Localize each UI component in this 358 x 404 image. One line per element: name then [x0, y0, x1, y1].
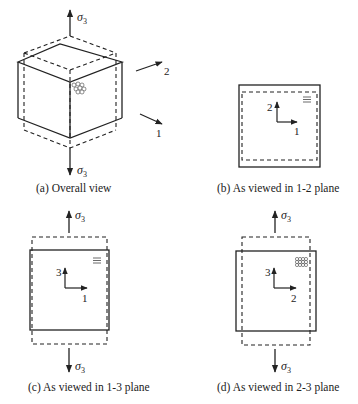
- stress-label-top: σ3: [75, 208, 85, 224]
- panel-b-1-2-plane: 2 1: [239, 85, 320, 167]
- deformed-rectangle: [32, 237, 107, 344]
- panel-d-2-3-plane: σ3 3 2 σ3: [236, 208, 316, 375]
- axis-2-label: 2: [291, 292, 297, 304]
- caption-a: (a) Overall view: [36, 182, 111, 194]
- original-cube-outline: [18, 44, 122, 138]
- fiber-lines-icon: [303, 97, 311, 102]
- panel-a-overall-view: σ3 σ3 2 1: [18, 10, 170, 179]
- axis-2-label: 2: [267, 101, 273, 113]
- original-square: [30, 250, 109, 330]
- stress-label-bottom: σ3: [281, 359, 291, 375]
- fiber-cluster-icon: [295, 257, 307, 266]
- panel-c-1-3-plane: σ3 3 1 σ3: [30, 208, 109, 375]
- axis-2-arrow: [136, 62, 162, 71]
- stress-label-bottom: σ3: [75, 359, 85, 375]
- axis-1-label: 1: [156, 127, 162, 139]
- figure-canvas: σ3 σ3 2 1: [0, 0, 358, 404]
- stress-label-top: σ3: [77, 10, 87, 26]
- axis-3-label: 3: [265, 266, 271, 278]
- axis-1-arrow: [140, 114, 162, 124]
- caption-b: (b) As viewed in 1-2 plane: [217, 182, 339, 194]
- axis-2-label: 2: [164, 65, 170, 77]
- caption-d: (d) As viewed in 2-3 plane: [217, 381, 339, 393]
- fiber-lines-icon: [93, 258, 101, 263]
- stress-label-top: σ3: [281, 208, 291, 224]
- caption-c: (c) As viewed in 1-3 plane: [28, 381, 150, 393]
- axis-1-label: 1: [294, 125, 300, 137]
- deformed-rectangle: [242, 237, 310, 345]
- fiber-cluster-icon: [72, 82, 86, 94]
- axis-1-label: 1: [82, 292, 88, 304]
- stress-label-bottom: σ3: [77, 163, 87, 179]
- axis-3-label: 3: [56, 266, 62, 278]
